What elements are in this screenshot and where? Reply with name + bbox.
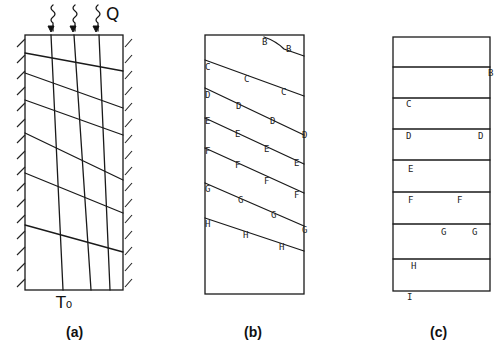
marker-label: G	[238, 195, 243, 205]
left-wall-hatch	[17, 119, 25, 127]
panel-a-diagram	[17, 5, 132, 290]
marker-label: I	[407, 292, 412, 302]
front-line-E	[205, 118, 304, 164]
grid-line	[25, 173, 123, 213]
left-wall-hatch	[17, 183, 25, 191]
marker-label: F	[235, 160, 240, 170]
right-wall-hatch	[125, 215, 132, 223]
marker-label: D	[205, 90, 210, 100]
left-wall-hatch	[17, 231, 25, 239]
marker-label: D	[406, 131, 411, 141]
grid-line	[25, 53, 123, 71]
panel-b-diagram: BBCCCDDDDEEEEFFFFGGGGHHH	[205, 35, 307, 294]
right-wall-hatch	[125, 231, 132, 239]
left-wall-hatch	[17, 279, 25, 287]
right-wall-hatch	[125, 183, 132, 191]
marker-label: E	[294, 158, 299, 168]
marker-label: E	[408, 164, 413, 174]
left-wall-hatch	[17, 71, 25, 79]
front-line-B	[264, 37, 304, 56]
marker-label: C	[406, 99, 411, 109]
marker-label: C	[205, 62, 210, 72]
left-wall-hatch	[17, 103, 25, 111]
marker-label: G	[302, 225, 307, 235]
marker-label: C	[281, 87, 286, 97]
front-line-F	[205, 148, 304, 193]
right-wall-hatch	[125, 55, 132, 63]
panel-c-diagram: BCDDEFFGGHI	[393, 37, 493, 302]
marker-label: H	[205, 219, 210, 229]
marker-label: F	[294, 190, 299, 200]
right-wall-hatch	[125, 39, 132, 47]
panel-b-box	[205, 35, 304, 294]
marker-label: G	[472, 227, 477, 237]
left-wall-hatch	[17, 247, 25, 255]
panel-a-caption: (a)	[66, 324, 83, 340]
right-wall-hatch	[125, 135, 132, 143]
left-wall-hatch	[17, 135, 25, 143]
left-wall-hatch	[17, 199, 25, 207]
isotherm-line	[74, 35, 91, 290]
marker-label: B	[286, 44, 291, 54]
right-wall-hatch	[125, 279, 132, 287]
left-wall-hatch	[17, 215, 25, 223]
left-wall-hatch	[17, 151, 25, 159]
marker-label: F	[457, 195, 462, 205]
front-line-G	[205, 183, 304, 226]
front-line-D	[205, 88, 304, 135]
figure-canvas: BBCCCDDDDEEEEFFFFGGGGHHH BCDDEFFGGHI	[0, 0, 504, 360]
marker-label: E	[264, 144, 269, 154]
left-wall-hatch	[17, 55, 25, 63]
right-wall-hatch	[125, 247, 132, 255]
right-wall-hatch	[125, 199, 132, 207]
marker-label: G	[205, 184, 210, 194]
marker-label: E	[205, 116, 210, 126]
left-wall-hatch	[17, 87, 25, 95]
front-line-C	[205, 60, 304, 96]
panel-c-caption: (c)	[430, 324, 447, 340]
right-wall-hatch	[125, 71, 132, 79]
left-wall-hatch	[17, 39, 25, 47]
right-wall-hatch	[125, 263, 132, 271]
marker-label: E	[235, 129, 240, 139]
right-wall-hatch	[125, 167, 132, 175]
heat-flux-label: Q	[106, 4, 119, 24]
marker-label: F	[408, 195, 413, 205]
marker-label: B	[262, 37, 267, 47]
marker-label: D	[270, 116, 275, 126]
marker-label: D	[302, 130, 307, 140]
marker-label: H	[411, 261, 416, 271]
marker-label: F	[264, 176, 269, 186]
marker-label: H	[279, 242, 284, 252]
marker-label: D	[236, 101, 241, 111]
marker-label: B	[488, 68, 493, 78]
right-wall-hatch	[125, 119, 132, 127]
left-wall-hatch	[17, 263, 25, 271]
marker-label: H	[243, 230, 248, 240]
isotherm-line	[99, 35, 110, 290]
right-wall-hatch	[125, 87, 132, 95]
marker-label: F	[205, 146, 210, 156]
marker-label: G	[441, 227, 446, 237]
marker-label: C	[244, 74, 249, 84]
front-line-H	[205, 218, 304, 251]
grid-line	[25, 133, 123, 180]
right-wall-hatch	[125, 103, 132, 111]
panel-b-caption: (b)	[244, 324, 262, 340]
left-wall-hatch	[17, 167, 25, 175]
marker-label: D	[478, 131, 483, 141]
right-wall-hatch	[125, 151, 132, 159]
marker-label: G	[271, 210, 276, 220]
grid-line	[25, 100, 123, 135]
bottom-temperature-label: T₀	[56, 293, 72, 312]
grid-line	[25, 73, 123, 108]
isotherm-line	[51, 35, 63, 290]
